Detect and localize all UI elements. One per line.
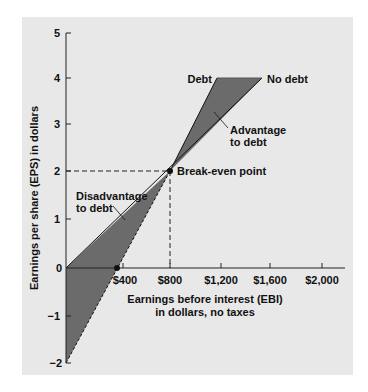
y-tick-2: 2 <box>54 165 60 177</box>
x-axis-title-line1: Earnings before interest (EBI) <box>127 293 283 305</box>
advantage-label-line1: Advantage <box>230 124 286 136</box>
advantage-label-line2: to debt <box>230 136 267 148</box>
x-tick-400: $400 <box>113 274 137 286</box>
y-tick-5: 5 <box>54 27 60 39</box>
x-tick-800: $800 <box>158 274 182 286</box>
x-axis-title-line2: in dollars, no taxes <box>155 306 255 318</box>
y-axis-title: Earnings per share (EPS) in dollars <box>28 106 40 290</box>
debt-zero-marker <box>114 265 120 271</box>
y-tick-m1: −1 <box>47 310 60 322</box>
x-ticks <box>123 263 322 268</box>
x-tick-1200: $1,200 <box>204 274 238 286</box>
y-tick-4: 4 <box>54 72 61 84</box>
break-even-marker <box>167 168 173 174</box>
x-tick-2000: $2,000 <box>305 274 339 286</box>
y-tick-1: 1 <box>54 213 60 225</box>
disadvantage-label-line1: Disadvantage <box>76 190 148 202</box>
y-tick-m2: −2 <box>49 357 62 369</box>
y-tick-0: 0 <box>56 262 62 274</box>
debt-label: Debt <box>188 73 213 85</box>
eps-ebi-chart: 5 4 3 2 1 0 −1 −2 $400 $800 $1,200 $1,60… <box>0 0 368 392</box>
disadvantage-label-line2: to debt <box>76 202 113 214</box>
no-debt-label: No debt <box>267 73 308 85</box>
x-tick-1600: $1,600 <box>253 274 287 286</box>
break-even-label: Break-even point <box>177 165 267 177</box>
y-tick-3: 3 <box>54 118 60 130</box>
